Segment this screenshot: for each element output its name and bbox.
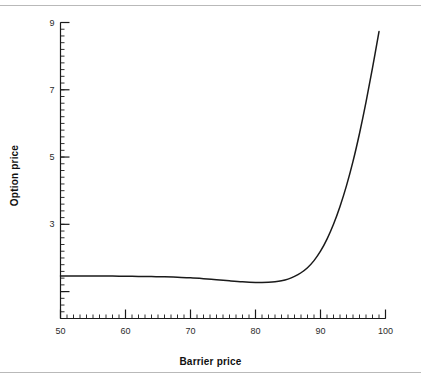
x-tick-label: 90 (315, 326, 325, 336)
y-tick-label: 7 (35, 85, 55, 95)
y-tick-label: 3 (35, 219, 55, 229)
y-tick-label: 9 (35, 18, 55, 28)
figure-canvas: 5060708090100 3579 Barrier price Option … (0, 0, 421, 381)
y-axis-title: Option price (9, 126, 20, 226)
x-tick-label: 80 (250, 326, 260, 336)
x-tick-label: 50 (55, 326, 65, 336)
line-chart-plot (0, 0, 421, 381)
x-tick-label: 60 (120, 326, 130, 336)
x-tick-label: 100 (378, 326, 393, 336)
x-tick-label: 70 (185, 326, 195, 336)
y-tick-label: 5 (35, 152, 55, 162)
data-series-line (61, 32, 380, 283)
axes-group (61, 23, 386, 319)
ticks-group (61, 23, 386, 319)
x-axis-title: Barrier price (0, 356, 421, 367)
